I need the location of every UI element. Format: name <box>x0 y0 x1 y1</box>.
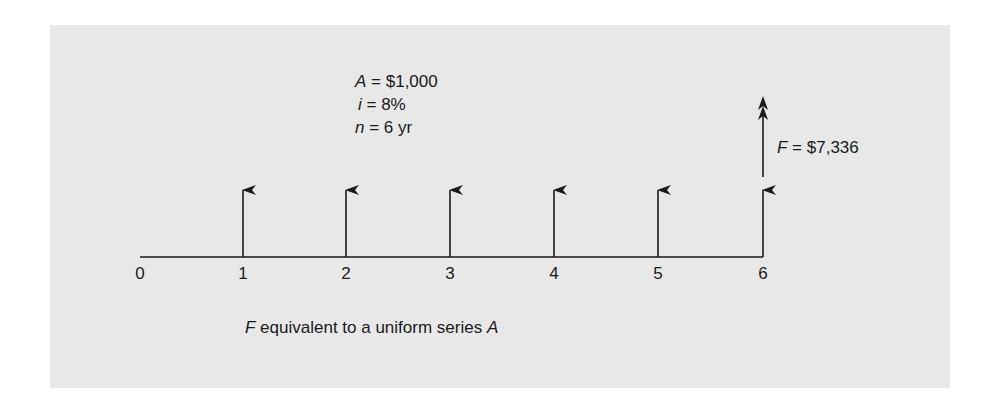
future-value-label: F = $7,336 <box>777 138 859 158</box>
uniform-series-arrows <box>243 190 763 257</box>
tick-label-0: 0 <box>135 264 144 284</box>
param-n: n = 6 yr <box>355 116 438 139</box>
tick-label-2: 2 <box>341 264 350 284</box>
tick-label-5: 5 <box>653 264 662 284</box>
parameter-block: A = $1,000 i = 8% n = 6 yr <box>355 70 438 139</box>
tick-label-3: 3 <box>445 264 454 284</box>
tick-label-1: 1 <box>238 264 247 284</box>
figure-caption: F equivalent to a uniform series A <box>245 318 498 338</box>
param-a: A = $1,000 <box>355 70 438 93</box>
tick-label-6: 6 <box>758 264 767 284</box>
cash-flow-diagram <box>0 0 1001 405</box>
param-i: i = 8% <box>355 93 438 116</box>
future-value-arrow <box>758 96 768 177</box>
tick-label-4: 4 <box>549 264 558 284</box>
